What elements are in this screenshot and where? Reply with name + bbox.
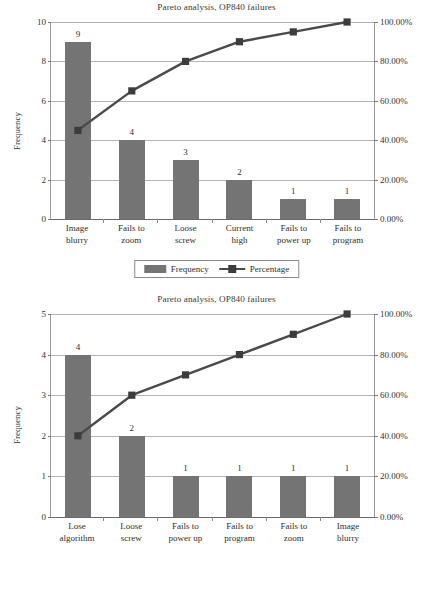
y-axis-tick-label: 4 xyxy=(42,350,47,360)
x-axis-labels-top: Image blurryFails to zoomLoose screwCurr… xyxy=(50,223,375,246)
legend-item-percentage-top: Percentage xyxy=(219,264,289,274)
percentage-marker xyxy=(128,392,135,399)
percentage-marker xyxy=(128,87,135,94)
y-axis-tick-label: 0 xyxy=(42,214,47,224)
secondary-axis-tick-mark xyxy=(374,355,378,356)
secondary-axis-tick-label: 40.00% xyxy=(380,431,408,441)
legend-label-percentage: Percentage xyxy=(250,264,289,274)
secondary-axis-tick-label: 80.00% xyxy=(380,350,408,360)
percentage-marker xyxy=(74,127,81,134)
secondary-axis-tick-mark xyxy=(374,395,378,396)
y-axis-tick-label: 6 xyxy=(42,96,47,106)
percentage-line xyxy=(78,22,347,130)
legend-item-frequency-top: Frequency xyxy=(144,264,209,274)
y-axis-tick-label: 2 xyxy=(42,431,47,441)
secondary-axis-tick-label: 0.00% xyxy=(380,512,403,522)
pareto-chart-top: Pareto analysis, OP840 failures Frequenc… xyxy=(0,0,433,290)
y-axis-label-top: Frequency xyxy=(12,112,22,150)
y-axis-tick-label: 8 xyxy=(42,56,47,66)
secondary-axis-tick-label: 100.00% xyxy=(380,17,412,27)
percentage-marker xyxy=(74,432,81,439)
x-axis-category-label: Current high xyxy=(213,223,267,246)
legend-top: Frequency Percentage xyxy=(134,260,299,278)
pareto-chart-bottom: Pareto analysis, OP840 failures Frequenc… xyxy=(0,292,433,594)
y-axis-tick-label: 4 xyxy=(42,135,47,145)
y-axis-tick-label: 2 xyxy=(42,175,47,185)
secondary-axis-tick-label: 40.00% xyxy=(380,135,408,145)
y-axis-label-bottom: Frequency xyxy=(12,406,22,444)
secondary-axis-tick-label: 60.00% xyxy=(380,390,408,400)
secondary-axis-tick-mark xyxy=(374,22,378,23)
secondary-axis-tick-label: 80.00% xyxy=(380,56,408,66)
x-axis-category-label: Fails to program xyxy=(321,223,375,246)
y-axis-tick-label: 3 xyxy=(42,390,47,400)
x-axis-labels-bottom: Lose algorithmLoose screwFails to power … xyxy=(50,521,375,544)
secondary-axis-tick-mark xyxy=(374,314,378,315)
secondary-axis-tick-mark xyxy=(374,180,378,181)
chart-title-top: Pareto analysis, OP840 failures xyxy=(0,2,433,12)
secondary-axis-tick-mark xyxy=(374,140,378,141)
chart-title-bottom: Pareto analysis, OP840 failures xyxy=(0,294,433,304)
plot-area-bottom: 0123450.00%20.00%40.00%60.00%80.00%100.0… xyxy=(50,314,375,517)
y-axis-tick-label: 10 xyxy=(37,17,46,27)
percentage-marker xyxy=(182,371,189,378)
pareto-charts-page: Pareto analysis, OP840 failures Frequenc… xyxy=(0,0,433,594)
x-axis-category-label: Fails to zoom xyxy=(267,521,321,544)
percentage-marker xyxy=(343,310,350,317)
x-axis-category-label: Fails to power up xyxy=(267,223,321,246)
secondary-axis-tick-label: 100.00% xyxy=(380,309,412,319)
line-marker-swatch-icon xyxy=(219,265,245,274)
percentage-marker xyxy=(290,331,297,338)
percentage-line-series xyxy=(51,314,374,517)
percentage-marker xyxy=(236,351,243,358)
x-axis-category-label: Fails to zoom xyxy=(104,223,158,246)
x-axis-category-label: Fails to power up xyxy=(158,521,212,544)
y-axis-tick-label: 0 xyxy=(42,512,47,522)
x-axis-category-label: Lose algorithm xyxy=(50,521,104,544)
x-axis-category-label: Image blurry xyxy=(321,521,375,544)
x-axis-category-label: Fails to program xyxy=(213,521,267,544)
x-axis-category-label: Loose screw xyxy=(158,223,212,246)
percentage-marker xyxy=(236,38,243,45)
secondary-axis-tick-label: 20.00% xyxy=(380,471,408,481)
secondary-axis-tick-mark xyxy=(374,61,378,62)
secondary-axis-tick-mark xyxy=(374,101,378,102)
percentage-marker xyxy=(290,28,297,35)
percentage-marker xyxy=(343,18,350,25)
percentage-line xyxy=(78,314,347,436)
secondary-axis-tick-label: 60.00% xyxy=(380,96,408,106)
y-axis-tick-label: 5 xyxy=(42,309,47,319)
percentage-marker xyxy=(182,58,189,65)
x-axis-category-label: Loose screw xyxy=(104,521,158,544)
plot-area-top: 02468100.00%20.00%40.00%60.00%80.00%100.… xyxy=(50,22,375,219)
legend-label-frequency: Frequency xyxy=(171,264,209,274)
secondary-axis-tick-mark xyxy=(374,476,378,477)
x-axis-category-label: Image blurry xyxy=(50,223,104,246)
secondary-axis-tick-label: 20.00% xyxy=(380,175,408,185)
percentage-line-series xyxy=(51,22,374,219)
secondary-axis-tick-label: 0.00% xyxy=(380,214,403,224)
y-axis-tick-label: 1 xyxy=(42,471,47,481)
secondary-axis-tick-mark xyxy=(374,436,378,437)
bar-swatch-icon xyxy=(144,265,166,273)
